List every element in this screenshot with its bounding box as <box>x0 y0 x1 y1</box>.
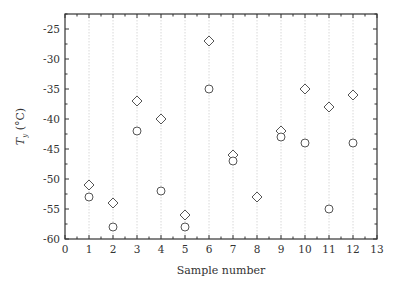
diamond-marker <box>156 114 166 124</box>
y-tick-label: -30 <box>43 53 60 65</box>
x-tick-label: 4 <box>158 243 165 255</box>
y-tick-label: -35 <box>43 83 60 95</box>
circle-marker <box>157 187 165 195</box>
x-tick-label: 13 <box>370 243 383 255</box>
circle-marker <box>349 139 357 147</box>
data-points <box>84 36 358 231</box>
x-tick-label: 7 <box>230 243 237 255</box>
circle-marker <box>85 193 93 201</box>
diamond-marker <box>84 180 94 190</box>
x-tick-label: 3 <box>134 243 141 255</box>
y-axis-title: Ty (°C) <box>14 108 29 145</box>
x-tick-label: 9 <box>278 243 285 255</box>
diamond-marker <box>204 36 214 46</box>
circle-marker <box>277 133 285 141</box>
circle-marker <box>109 223 117 231</box>
y-tick-label: -50 <box>43 173 60 185</box>
y-tick-label: -25 <box>43 23 60 35</box>
y-tick-labels: -60-55-50-45-40-35-30-25 <box>43 23 60 245</box>
diamond-marker <box>300 84 310 94</box>
y-tick-label: -55 <box>43 203 60 215</box>
circle-marker <box>133 127 141 135</box>
x-tick-label: 10 <box>298 243 311 255</box>
y-axis-title-unit: (°C) <box>14 108 27 134</box>
circle-marker <box>181 223 189 231</box>
x-tick-label: 12 <box>346 243 359 255</box>
x-tick-label: 11 <box>322 243 335 255</box>
x-tick-label: 1 <box>86 243 93 255</box>
diamond-marker <box>324 102 334 112</box>
diamond-marker <box>348 90 358 100</box>
diamond-marker <box>132 96 142 106</box>
x-tick-label: 5 <box>182 243 189 255</box>
scatter-chart: 012345678910111213 -60-55-50-45-40-35-30… <box>0 0 396 292</box>
x-tick-label: 2 <box>110 243 117 255</box>
x-tick-label: 6 <box>206 243 213 255</box>
circle-marker <box>325 205 333 213</box>
diamond-marker <box>252 192 262 202</box>
diamond-marker <box>180 210 190 220</box>
circle-marker <box>229 157 237 165</box>
y-tick-label: -40 <box>43 113 60 125</box>
circle-marker <box>205 85 213 93</box>
grid-lines <box>89 14 353 239</box>
diamond-marker <box>108 198 118 208</box>
x-axis-title: Sample number <box>177 264 266 277</box>
y-tick-label: -60 <box>43 233 60 245</box>
x-tick-label: 0 <box>62 243 69 255</box>
y-tick-label: -45 <box>43 143 60 155</box>
circle-marker <box>301 139 309 147</box>
x-tick-labels: 012345678910111213 <box>62 243 384 255</box>
x-tick-label: 8 <box>254 243 261 255</box>
